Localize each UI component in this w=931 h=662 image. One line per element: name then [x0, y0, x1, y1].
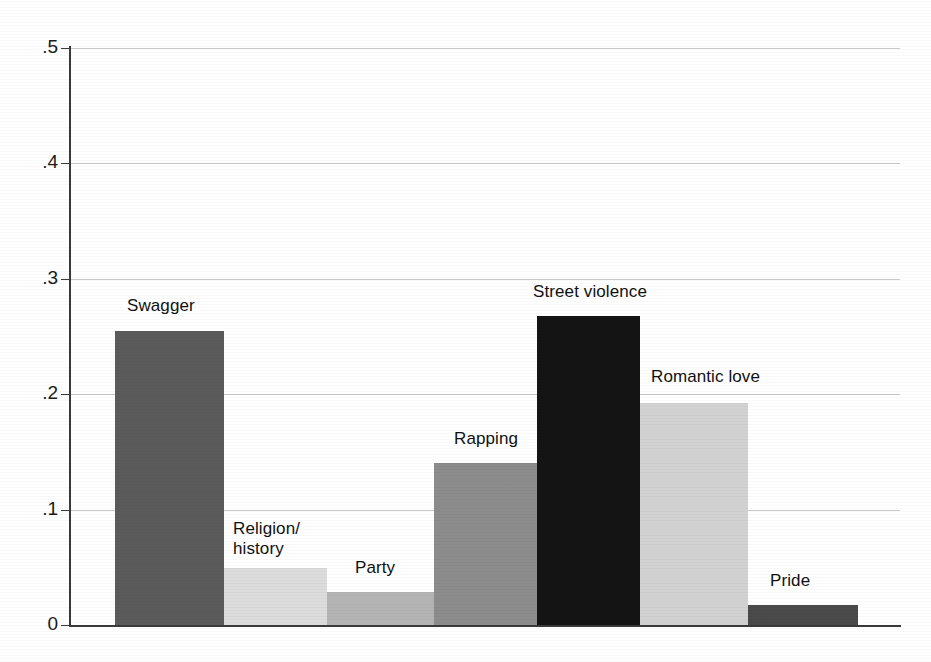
bar-pride: [748, 605, 858, 625]
x-axis-line: [69, 625, 901, 627]
bar-swagger: [115, 331, 224, 625]
bar-chart: .5.4.3.2.10 SwaggerReligion/ historyPart…: [0, 0, 931, 662]
bar-rapping: [434, 463, 537, 625]
bar-party: [327, 592, 434, 625]
bar-religion--history: [224, 568, 327, 625]
bar-label-street-violence: Street violence: [533, 282, 647, 302]
plot-area: [70, 48, 900, 625]
bar-label-party: Party: [355, 558, 395, 578]
bar-street-violence: [537, 316, 640, 625]
y-tick-label-p4: .4: [12, 152, 58, 171]
bar-romantic-love: [640, 403, 748, 625]
y-tick-label-p1: .1: [12, 499, 58, 518]
bar-label-religion--history: Religion/ history: [233, 519, 300, 559]
y-tick-label-p5: .5: [12, 37, 58, 56]
bar-label-pride: Pride: [770, 571, 810, 591]
y-tick-label-0: 0: [12, 614, 58, 633]
bar-label-rapping: Rapping: [454, 429, 518, 449]
y-tick-label-p3: .3: [12, 268, 58, 287]
y-tick-label-p2: .2: [12, 383, 58, 402]
bar-label-swagger: Swagger: [127, 296, 195, 316]
bar-label-romantic-love: Romantic love: [651, 367, 760, 387]
